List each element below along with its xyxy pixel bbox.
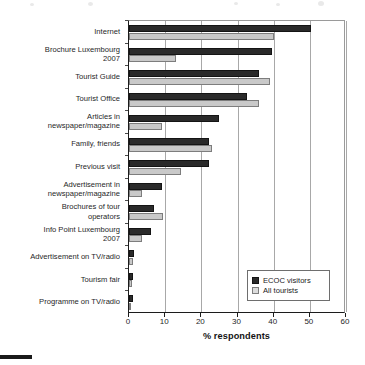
- category-tick-9: [125, 223, 128, 224]
- x-tick-mark-50: [309, 313, 310, 317]
- bar-0-4: [129, 115, 219, 122]
- scan-speck: [276, 3, 280, 6]
- gridline-60: [346, 21, 347, 312]
- category-label-5: Family, friends: [0, 139, 120, 148]
- category-tick-7: [125, 178, 128, 179]
- x-tick-label-30: 30: [222, 317, 252, 326]
- bar-rows: [129, 21, 344, 312]
- category-label-2: Tourist Guide: [0, 72, 120, 81]
- x-tick-mark-30: [237, 313, 238, 317]
- category-label-9: Info Point Luxembourg 2007: [0, 225, 120, 243]
- category-label-1: Brochure Luxembourg 2007: [0, 45, 120, 63]
- legend-item-ecoc-visitors: ECOC visitors: [252, 276, 325, 285]
- bar-1-6: [129, 168, 181, 175]
- bar-1-1: [129, 55, 176, 62]
- bar-1-3: [129, 100, 259, 107]
- scan-speck: [30, 3, 34, 6]
- bar-0-6: [129, 160, 209, 167]
- category-tick-8: [125, 200, 128, 201]
- x-tick-label-50: 50: [294, 317, 324, 326]
- bar-1-12: [129, 303, 131, 310]
- x-tick-label-60: 60: [330, 317, 360, 326]
- bar-1-9: [129, 235, 142, 242]
- horizontal-bar-chart: InternetBrochure Luxembourg 2007Tourist …: [0, 0, 365, 365]
- bar-1-4: [129, 123, 162, 130]
- scan-speck: [318, 1, 324, 6]
- legend-label-ecoc-visitors: ECOC visitors: [263, 276, 311, 285]
- x-tick-label-10: 10: [149, 317, 179, 326]
- bar-0-8: [129, 205, 154, 212]
- category-tick-2: [125, 65, 128, 66]
- category-label-3: Tourist Office: [0, 94, 120, 103]
- category-tick-10: [125, 245, 128, 246]
- category-label-11: Tourism fair: [0, 275, 120, 284]
- bar-0-9: [129, 228, 151, 235]
- category-label-12: Programme on TV/radio: [0, 297, 120, 306]
- category-tick-11: [125, 268, 128, 269]
- bar-1-2: [129, 78, 270, 85]
- bar-0-11: [129, 273, 133, 280]
- chart-legend: ECOC visitors All tourists: [247, 270, 330, 301]
- light-swatch-icon: [252, 287, 259, 294]
- scan-speck: [234, 2, 238, 5]
- category-tick-4: [125, 110, 128, 111]
- category-label-6: Previous visit: [0, 162, 120, 171]
- x-tick-label-40: 40: [258, 317, 288, 326]
- bar-1-11: [129, 280, 132, 287]
- bar-0-1: [129, 48, 272, 55]
- scan-artifact: [0, 355, 32, 359]
- x-axis-ticks: 0102030405060: [0, 313, 365, 329]
- bar-1-7: [129, 190, 142, 197]
- bar-1-10: [129, 258, 133, 265]
- bar-1-0: [129, 33, 274, 40]
- bar-0-3: [129, 93, 247, 100]
- dark-swatch-icon: [252, 277, 259, 284]
- category-label-10: Advertisement on TV/radio: [0, 252, 120, 261]
- category-label-4: Articles in newspaper/magazine: [0, 112, 120, 130]
- bar-0-2: [129, 70, 259, 77]
- category-tick-6: [125, 155, 128, 156]
- category-tick-12: [125, 290, 128, 291]
- x-axis-title: % respondents: [128, 331, 345, 341]
- category-tick-5: [125, 133, 128, 134]
- bar-0-5: [129, 138, 209, 145]
- category-tick-1: [125, 43, 128, 44]
- bar-0-7: [129, 183, 162, 190]
- x-tick-mark-0: [128, 313, 129, 317]
- x-tick-mark-10: [164, 313, 165, 317]
- x-tick-mark-20: [200, 313, 201, 317]
- legend-item-all-tourists: All tourists: [252, 286, 325, 295]
- bar-0-10: [129, 250, 134, 257]
- category-tick-0: [125, 20, 128, 21]
- x-tick-mark-40: [273, 313, 274, 317]
- category-label-0: Internet: [0, 27, 120, 36]
- category-tick-3: [125, 88, 128, 89]
- x-tick-mark-60: [345, 313, 346, 317]
- bar-1-5: [129, 145, 212, 152]
- bar-1-8: [129, 213, 163, 220]
- legend-label-all-tourists: All tourists: [263, 286, 298, 295]
- bar-0-0: [129, 25, 311, 32]
- x-tick-label-20: 20: [185, 317, 215, 326]
- scan-speck: [88, 2, 93, 6]
- category-label-7: Advertisement in newspaper/magazine: [0, 180, 120, 198]
- x-tick-label-0: 0: [113, 317, 143, 326]
- category-axis-labels: InternetBrochure Luxembourg 2007Tourist …: [0, 20, 124, 313]
- bar-0-12: [129, 295, 133, 302]
- category-label-8: Brochures of tour operators: [0, 202, 120, 220]
